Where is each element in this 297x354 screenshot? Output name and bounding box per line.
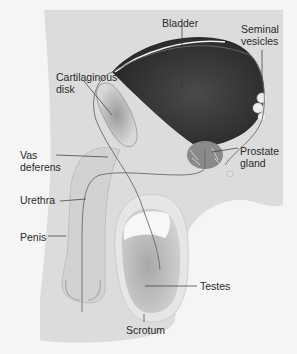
label-urethra: Urethra xyxy=(20,194,55,206)
label-bladder: Bladder xyxy=(162,17,198,29)
diagram-illustration xyxy=(0,0,297,354)
label-cartilaginous-disk: Cartilaginous disk xyxy=(56,71,117,95)
label-penis: Penis xyxy=(20,231,46,243)
label-prostate-gland: Prostate gland xyxy=(240,145,279,169)
label-scrotum: Scrotum xyxy=(126,324,165,336)
label-vas-deferens: Vas deferens xyxy=(20,149,61,173)
label-testes: Testes xyxy=(200,280,230,292)
reproductive-diagram: Bladder Seminal vesicles Cartilaginous d… xyxy=(0,0,297,354)
label-seminal-vesicles: Seminal vesicles xyxy=(241,23,279,47)
